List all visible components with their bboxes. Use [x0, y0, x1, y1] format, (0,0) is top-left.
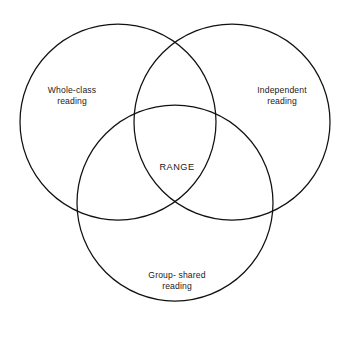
venn-circles-group: [0, 0, 354, 354]
circle-whole-class[interactable]: [20, 24, 216, 220]
venn-diagram: Whole-class reading Independent reading …: [0, 0, 354, 354]
label-range-intersection: RANGE: [127, 162, 227, 173]
label-independent: Independent reading: [228, 85, 336, 108]
label-whole-class: Whole-class reading: [18, 85, 126, 108]
label-group-shared: Group- shared reading: [117, 270, 237, 293]
circle-independent[interactable]: [134, 24, 330, 220]
